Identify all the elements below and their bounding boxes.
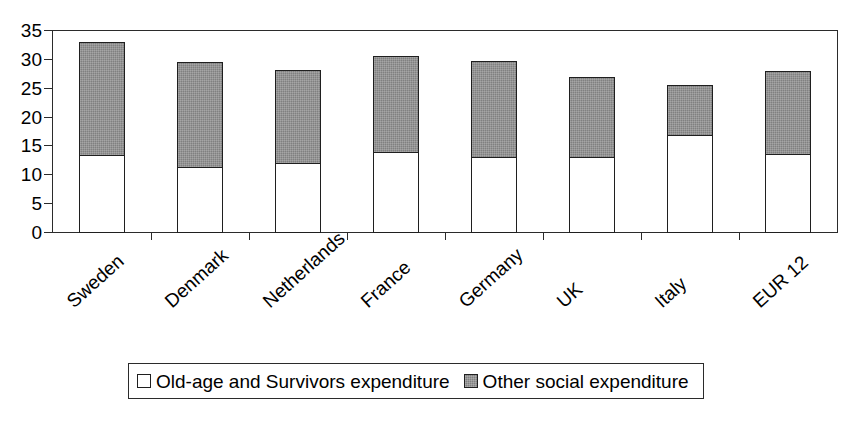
x-axis-tick <box>739 233 740 240</box>
x-axis-label-germany: Germany <box>455 245 526 311</box>
y-axis-label: 15 <box>0 136 42 155</box>
x-axis-tick <box>347 233 348 240</box>
bar-segment-old-age[interactable] <box>569 157 615 233</box>
plot-area <box>53 31 837 233</box>
stacked-bar[interactable] <box>177 62 223 233</box>
y-axis-label: 30 <box>0 50 42 69</box>
bar-segment-other-social[interactable] <box>569 77 615 159</box>
x-axis-tick <box>151 233 152 240</box>
chart-legend: Old-age and Survivors expenditureOther s… <box>128 363 704 399</box>
bar-slot <box>249 31 347 233</box>
bar-segment-old-age[interactable] <box>79 155 125 233</box>
legend-swatch-gray <box>464 374 478 388</box>
bar-segment-old-age[interactable] <box>765 154 811 233</box>
x-axis-label-eur-12: EUR 12 <box>749 252 811 311</box>
bar-segment-other-social[interactable] <box>667 85 713 137</box>
stacked-bar[interactable] <box>471 61 517 233</box>
stacked-bar[interactable] <box>667 85 713 233</box>
x-axis-label-denmark: Denmark <box>161 245 231 311</box>
stacked-bar-chart: ʒʒʒ 05101520253035 SwedenDenmarkNetherla… <box>0 0 852 429</box>
x-axis-tick <box>249 233 250 240</box>
x-axis-tick <box>641 233 642 240</box>
bar-segment-other-social[interactable] <box>79 42 125 156</box>
bar-slot <box>641 31 739 233</box>
legend-swatch-white <box>137 374 151 388</box>
y-axis-label: 10 <box>0 165 42 184</box>
x-axis-label-france: France <box>357 257 414 311</box>
y-axis-label: 35 <box>0 21 42 40</box>
x-axis-tick <box>543 233 544 240</box>
bar-segment-old-age[interactable] <box>177 167 223 233</box>
legend-item[interactable]: Other social expenditure <box>464 372 689 391</box>
y-axis-tick-labels: 05101520253035 <box>0 0 42 250</box>
bar-segment-other-social[interactable] <box>471 61 517 159</box>
x-axis-label-italy: Italy <box>651 274 690 311</box>
bar-segment-other-social[interactable] <box>373 56 419 154</box>
x-axis-label-netherlands: Netherlands <box>259 228 348 311</box>
legend-label: Other social expenditure <box>483 372 689 391</box>
stacked-bar[interactable] <box>373 56 419 233</box>
y-axis-label: 20 <box>0 108 42 127</box>
stacked-bar[interactable] <box>765 71 811 233</box>
x-axis-label-uk: UK <box>553 279 585 311</box>
x-axis-label-sweden: Sweden <box>63 251 127 311</box>
bar-segment-old-age[interactable] <box>667 135 713 233</box>
x-axis-tick <box>445 233 446 240</box>
bar-segment-old-age[interactable] <box>373 152 419 233</box>
bar-segment-other-social[interactable] <box>765 71 811 155</box>
legend-item[interactable]: Old-age and Survivors expenditure <box>137 372 450 391</box>
bar-slot <box>53 31 151 233</box>
y-axis-label: 25 <box>0 79 42 98</box>
stacked-bar[interactable] <box>275 70 321 233</box>
y-axis-label: 5 <box>0 194 42 213</box>
bar-slot <box>543 31 641 233</box>
bar-segment-other-social[interactable] <box>275 70 321 164</box>
bar-segment-old-age[interactable] <box>275 163 321 233</box>
x-axis-category-labels: SwedenDenmarkNetherlandsFranceGermanyUKI… <box>0 240 852 350</box>
stacked-bar[interactable] <box>79 42 125 233</box>
bar-slot <box>445 31 543 233</box>
bar-slot <box>739 31 837 233</box>
bar-segment-old-age[interactable] <box>471 157 517 233</box>
legend-label: Old-age and Survivors expenditure <box>156 372 450 391</box>
bar-slot <box>347 31 445 233</box>
bar-slot <box>151 31 249 233</box>
bar-segment-other-social[interactable] <box>177 62 223 168</box>
stacked-bar[interactable] <box>569 77 615 233</box>
